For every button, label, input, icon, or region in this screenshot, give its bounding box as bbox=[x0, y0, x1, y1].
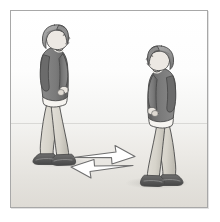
figure-right-hand-second bbox=[152, 111, 159, 117]
figure-left bbox=[33, 25, 76, 166]
figure-right bbox=[140, 46, 183, 187]
illustration-scene: Two women facing each other with two-way… bbox=[0, 0, 220, 222]
figure-right-far-arm bbox=[167, 76, 176, 112]
illustration-artwork bbox=[11, 11, 207, 207]
picture-frame bbox=[10, 10, 208, 208]
figure-left-far-arm bbox=[40, 55, 49, 91]
picture-frame-inner bbox=[11, 11, 207, 207]
figure-left-hand-second bbox=[58, 90, 65, 96]
